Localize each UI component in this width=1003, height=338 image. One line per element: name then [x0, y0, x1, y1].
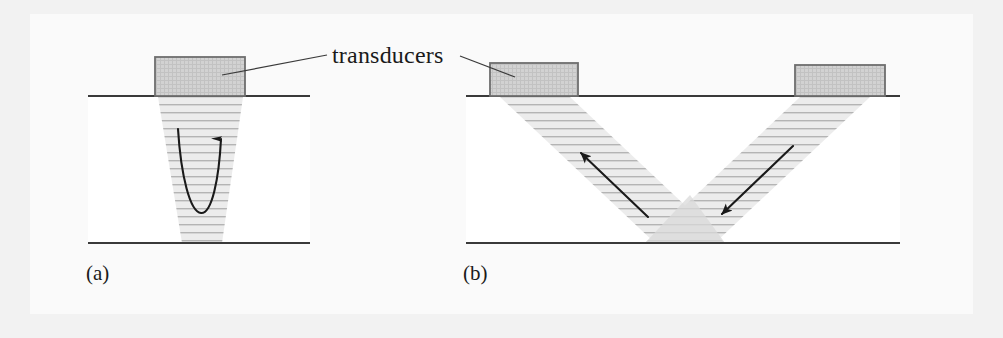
panel-b-transducer-right [795, 65, 885, 96]
panel-a-caption: (a) [86, 261, 109, 286]
panel-b-caption: (b) [463, 261, 488, 286]
transducer-beam-diagram [0, 0, 1003, 338]
transducers-label: transducers [332, 42, 444, 69]
panel-b-transducer-left [490, 63, 578, 96]
panel-b-group [466, 63, 900, 246]
panel-a-group [88, 57, 310, 246]
figure-page: transducers (a) (b) [0, 0, 1003, 338]
panel-a-transducer [155, 57, 245, 96]
